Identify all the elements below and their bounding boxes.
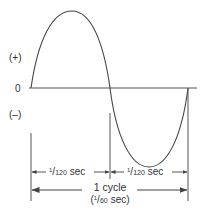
unit-label: sec) <box>111 194 130 205</box>
fraction-denominator: 60 <box>100 197 108 204</box>
sine-positive-half <box>31 11 110 88</box>
full-cycle-period-label: (1/60sec) <box>90 194 129 205</box>
unit-label: sec <box>70 166 86 177</box>
negative-label: (–) <box>9 109 21 120</box>
full-cycle-label: 1 cycle <box>94 181 127 193</box>
fraction-denominator: 120 <box>55 169 67 176</box>
positive-label: (+) <box>9 52 22 63</box>
fraction-denominator: 120 <box>133 169 145 176</box>
half-cycle-left-label: 1/120sec <box>49 166 85 177</box>
sine-negative-half <box>110 88 188 167</box>
sine-wave-diagram: (+) 0 (–) 1/120sec 1/120sec 1 cycle (1/6… <box>0 0 203 216</box>
zero-label: 0 <box>15 83 21 94</box>
unit-label: sec <box>148 166 164 177</box>
half-cycle-right-label: 1/120sec <box>127 166 163 177</box>
